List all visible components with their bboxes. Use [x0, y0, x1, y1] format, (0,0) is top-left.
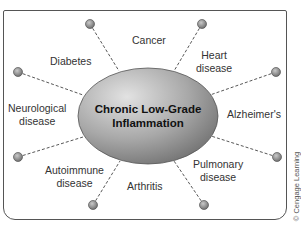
- label-diabetes: Diabetes: [50, 55, 91, 68]
- line-right-lower: [211, 136, 277, 157]
- label-arthritis: Arthritis: [127, 180, 163, 193]
- node-icon: [14, 68, 23, 77]
- node-icon: [272, 68, 281, 77]
- node-icon: [200, 201, 209, 210]
- line-top-left: [90, 24, 119, 71]
- line-left-upper: [18, 72, 83, 95]
- line-left-lower: [18, 137, 83, 157]
- center-title: Chronic Low-Grade Inflammation: [88, 102, 208, 130]
- node-icon: [14, 153, 23, 162]
- node-icon: [198, 20, 207, 29]
- label-alzheimers: Alzheimer's: [227, 108, 281, 121]
- label-heart-disease: Heart disease: [196, 49, 232, 75]
- node-icon: [86, 20, 95, 29]
- node-icon: [273, 153, 282, 162]
- label-cancer: Cancer: [132, 34, 166, 47]
- copyright-credit: © Cengage Learning: [292, 152, 301, 221]
- label-pulmonary-disease: Pulmonary disease: [193, 158, 243, 184]
- label-autoimmune-disease: Autoimmune disease: [45, 164, 104, 190]
- node-icon: [89, 201, 98, 210]
- line-right-upper: [210, 72, 276, 95]
- label-neurological-disease: Neurological disease: [8, 102, 66, 128]
